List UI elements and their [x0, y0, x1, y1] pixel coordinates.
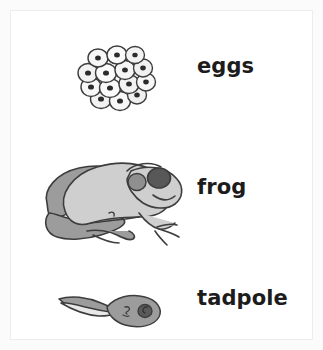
- adult-frog-icon: [35, 151, 185, 257]
- stage-label-tadpole: tadpole: [197, 286, 288, 310]
- stage-label-frog: frog: [197, 175, 246, 199]
- tadpole-icon: [53, 285, 163, 335]
- diagram-page: eggs: [0, 0, 323, 350]
- diagram-card: eggs: [10, 10, 313, 340]
- frog-eggs-cluster-icon: [71, 37, 167, 117]
- frog-eye-icon: [148, 168, 171, 188]
- frog-tympanum-icon: [128, 174, 146, 191]
- stage-label-eggs: eggs: [197, 54, 254, 78]
